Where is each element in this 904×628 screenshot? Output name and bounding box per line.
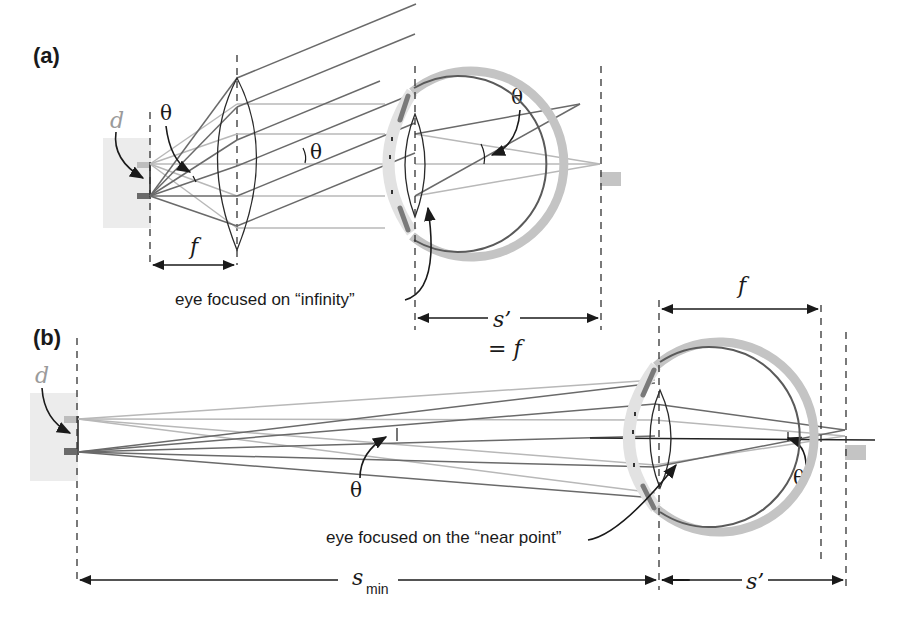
caption-near-point: eye focused on the “near point” (326, 528, 562, 547)
theta-pointer-object (166, 126, 190, 172)
panel-b-label: (b) (33, 325, 61, 350)
light-rays (78, 380, 845, 493)
near-point-distance-label: s (352, 565, 363, 590)
eye-b (629, 342, 866, 532)
panel-b: (b) d θ θ (30, 273, 875, 597)
object-label-d: d (35, 363, 49, 388)
focal-length-label: f (736, 273, 750, 298)
image-distance-label: s’ (746, 569, 764, 594)
object-bottom-marker (64, 448, 78, 455)
optic-nerve (845, 445, 866, 460)
magnifier-eye-diagram: (a) d (0, 0, 904, 628)
object-background (103, 138, 151, 228)
optic-nerve (600, 172, 621, 186)
image-distance-equality: = f (488, 336, 525, 361)
caption-infinity: eye focused on “infinity” (175, 290, 355, 309)
object-bottom-marker (137, 193, 150, 199)
panel-a-label: (a) (33, 43, 60, 68)
focal-length-label: f (188, 234, 202, 259)
object-top-marker (64, 416, 78, 423)
theta-label-near: θ (350, 478, 362, 502)
dark-rays (78, 383, 845, 498)
angle-mark-magnifier (303, 148, 306, 163)
near-point-distance-subscript: min (366, 581, 389, 597)
theta-label-object: θ (160, 101, 172, 125)
angle-mark-eye (481, 144, 485, 164)
image-distance-label: s’ (493, 307, 511, 332)
panel-a: (a) d (33, 4, 621, 361)
object-label-d: d (110, 108, 124, 133)
retina-wall (660, 347, 800, 527)
dark-rays (150, 4, 580, 226)
sclera (656, 342, 814, 532)
theta-label-magnifier: θ (310, 140, 322, 164)
object-top-marker (137, 162, 150, 168)
object-background (30, 393, 78, 481)
